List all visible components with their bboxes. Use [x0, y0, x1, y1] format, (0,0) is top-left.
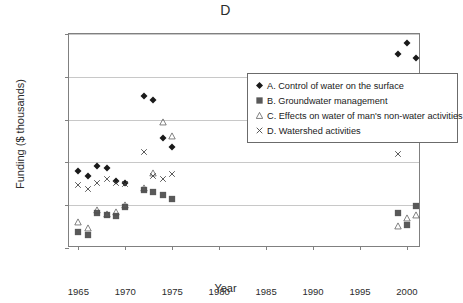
- data-point-series-a: [413, 54, 420, 61]
- y-axis-label: Funding ($ thousands): [14, 44, 26, 224]
- data-point-series-a: [403, 39, 410, 46]
- legend-label: A. Control of water on the surface: [266, 81, 404, 91]
- x-tick-mark: [407, 246, 408, 250]
- data-point-series-b: [75, 229, 82, 236]
- legend-label: C. Effects on water of man's non-water a…: [266, 111, 463, 121]
- legend-label: D. Watershed activities: [266, 126, 361, 136]
- x-tick-label: 1980: [199, 286, 239, 297]
- data-point-series-a: [84, 172, 91, 179]
- data-point-series-d: [141, 149, 148, 156]
- data-point-series-b: [394, 209, 401, 216]
- data-point-series-c: [413, 212, 420, 219]
- data-point-series-a: [94, 163, 101, 170]
- y-tick-mark: [65, 120, 69, 121]
- data-point-series-c: [141, 185, 148, 192]
- x-tick-label: 1990: [293, 286, 333, 297]
- data-point-series-c: [94, 207, 101, 214]
- data-point-series-d: [75, 181, 82, 188]
- x-tick-label: 1970: [105, 286, 145, 297]
- data-point-series-d: [103, 176, 110, 183]
- data-point-series-c: [75, 218, 82, 225]
- data-point-series-a: [75, 167, 82, 174]
- data-point-series-c: [84, 224, 91, 231]
- data-point-series-b: [403, 221, 410, 228]
- x-tick-label: 1995: [340, 286, 380, 297]
- chart-legend: A. Control of water on the surfaceB. Gro…: [247, 73, 458, 143]
- legend-item-c: C. Effects on water of man's non-water a…: [253, 108, 452, 123]
- gridline: [69, 34, 419, 35]
- x-tick-mark: [313, 246, 314, 250]
- x-tick-label: 1965: [58, 286, 98, 297]
- gridline: [69, 162, 419, 163]
- data-point-series-d: [122, 181, 129, 188]
- data-point-series-d: [394, 151, 401, 158]
- data-point-series-b: [150, 189, 157, 196]
- data-point-series-c: [394, 223, 401, 230]
- legend-item-b: B. Groundwater management: [253, 93, 452, 108]
- data-point-series-b: [413, 203, 420, 210]
- data-point-series-d: [169, 170, 176, 177]
- data-point-series-b: [169, 195, 176, 202]
- data-point-series-a: [103, 165, 110, 172]
- plot-area: 05,00010,00015,00020,00025,000 196519701…: [68, 33, 420, 247]
- data-point-series-c: [403, 215, 410, 222]
- data-point-series-d: [150, 172, 157, 179]
- y-tick-mark: [65, 162, 69, 163]
- x-tick-mark: [219, 246, 220, 250]
- data-point-series-c: [112, 209, 119, 216]
- data-point-series-c: [169, 133, 176, 140]
- y-tick-mark: [65, 248, 69, 249]
- triangle-marker-icon: [253, 109, 266, 122]
- x-tick-mark: [78, 246, 79, 250]
- data-point-series-a: [150, 97, 157, 104]
- diamond-marker-icon: [253, 79, 266, 92]
- data-point-series-d: [112, 180, 119, 187]
- legend-item-a: A. Control of water on the surface: [253, 78, 452, 93]
- data-point-series-d: [94, 179, 101, 186]
- y-tick-mark: [65, 77, 69, 78]
- chart-title: D: [0, 2, 451, 18]
- data-point-series-b: [84, 232, 91, 239]
- y-tick-mark: [65, 205, 69, 206]
- x-tick-label: 1985: [246, 286, 286, 297]
- data-point-series-a: [141, 93, 148, 100]
- data-point-series-c: [103, 211, 110, 218]
- data-point-series-a: [394, 51, 401, 58]
- x-tick-label: 2000: [387, 286, 427, 297]
- x-tick-mark: [266, 246, 267, 250]
- data-point-series-c: [159, 119, 166, 126]
- legend-item-d: D. Watershed activities: [253, 123, 452, 138]
- y-tick-mark: [65, 34, 69, 35]
- data-point-series-c: [122, 202, 129, 209]
- legend-label: B. Groundwater management: [266, 96, 388, 106]
- cross-marker-icon: [253, 124, 266, 137]
- data-point-series-b: [159, 192, 166, 199]
- x-tick-mark: [125, 246, 126, 250]
- x-tick-label: 1975: [152, 286, 192, 297]
- data-point-series-d: [159, 176, 166, 183]
- data-point-series-d: [84, 185, 91, 192]
- data-point-series-a: [169, 143, 176, 150]
- square-marker-icon: [253, 94, 266, 107]
- x-tick-mark: [360, 246, 361, 250]
- x-tick-mark: [172, 246, 173, 250]
- data-point-series-a: [159, 134, 166, 141]
